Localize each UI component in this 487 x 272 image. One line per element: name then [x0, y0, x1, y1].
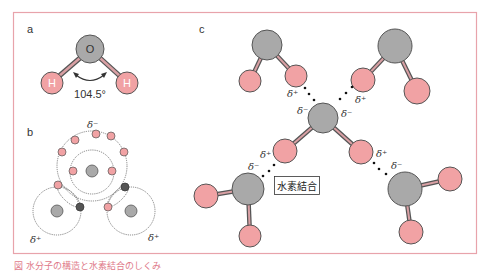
hydrogen-nucleus-left — [51, 205, 63, 217]
shared-electrons — [76, 183, 129, 211]
oxygen-nucleus — [86, 165, 98, 177]
angle-arrow-icon — [73, 72, 107, 81]
panel-a-label: a — [27, 23, 34, 35]
delta-plus-bottom-left: δ⁺ — [260, 149, 271, 160]
panel-a: a O H H 104.5° — [27, 23, 138, 100]
delta-plus-top-left: δ⁺ — [287, 88, 298, 99]
delta-minus-center-left: δ⁻ — [297, 105, 308, 116]
hydrogen-label-left: H — [48, 77, 56, 89]
water-molecule-top-right — [351, 29, 430, 104]
hydrogen-bond-label-box: 水素結合 — [275, 177, 320, 195]
hydrogen-nucleus-right — [125, 205, 137, 217]
bond-angle: 104.5° — [74, 88, 106, 100]
water-molecule-bottom-right — [388, 167, 462, 244]
panel-c-label: c — [199, 23, 205, 35]
hydrogen-label-right: H — [123, 77, 131, 89]
panel-b-label: b — [27, 126, 33, 138]
water-molecule-bottom-left — [194, 173, 264, 247]
figure-caption: 図 水分子の構造と水素結合のしくみ — [14, 259, 161, 272]
electron-shells — [33, 131, 155, 235]
panel-b: b δ⁻ δ⁺ δ — [27, 119, 159, 245]
delta-minus-bottom-right: δ⁻ — [391, 160, 402, 171]
oxygen-label: O — [86, 43, 95, 55]
delta-plus-left: δ⁺ — [30, 234, 41, 245]
water-molecule-top-left — [239, 30, 307, 92]
delta-minus-top: δ⁻ — [87, 119, 98, 130]
panel-c: c — [194, 23, 462, 247]
delta-plus-top-right: δ⁺ — [355, 94, 366, 105]
delta-minus-center-right: δ⁻ — [341, 108, 352, 119]
water-molecule-center — [273, 103, 373, 164]
delta-plus-right: δ⁺ — [148, 232, 159, 243]
hydrogen-bond-label: 水素結合 — [277, 180, 317, 192]
delta-plus-bottom-right: δ⁺ — [376, 148, 387, 159]
delta-minus-bottom-left: δ⁻ — [248, 161, 259, 172]
